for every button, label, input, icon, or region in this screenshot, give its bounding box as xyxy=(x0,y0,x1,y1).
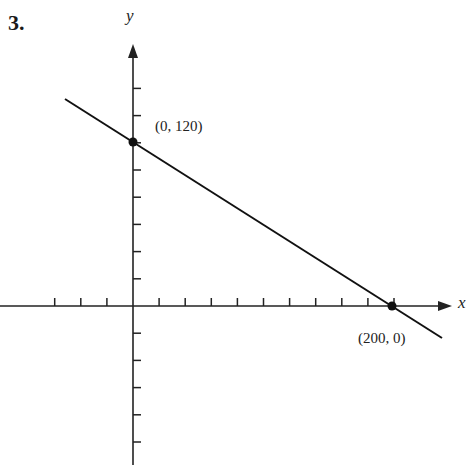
point-0-120 xyxy=(129,138,138,147)
x-axis-arrow-icon xyxy=(438,301,452,311)
point-label-0-120: (0, 120) xyxy=(155,118,203,135)
x-ticks xyxy=(55,298,394,306)
point-label-200-0: (200, 0) xyxy=(358,330,406,347)
point-200-0 xyxy=(388,302,397,311)
axes xyxy=(0,52,444,465)
data-line xyxy=(65,99,442,338)
y-axis-arrow-icon xyxy=(128,44,138,58)
